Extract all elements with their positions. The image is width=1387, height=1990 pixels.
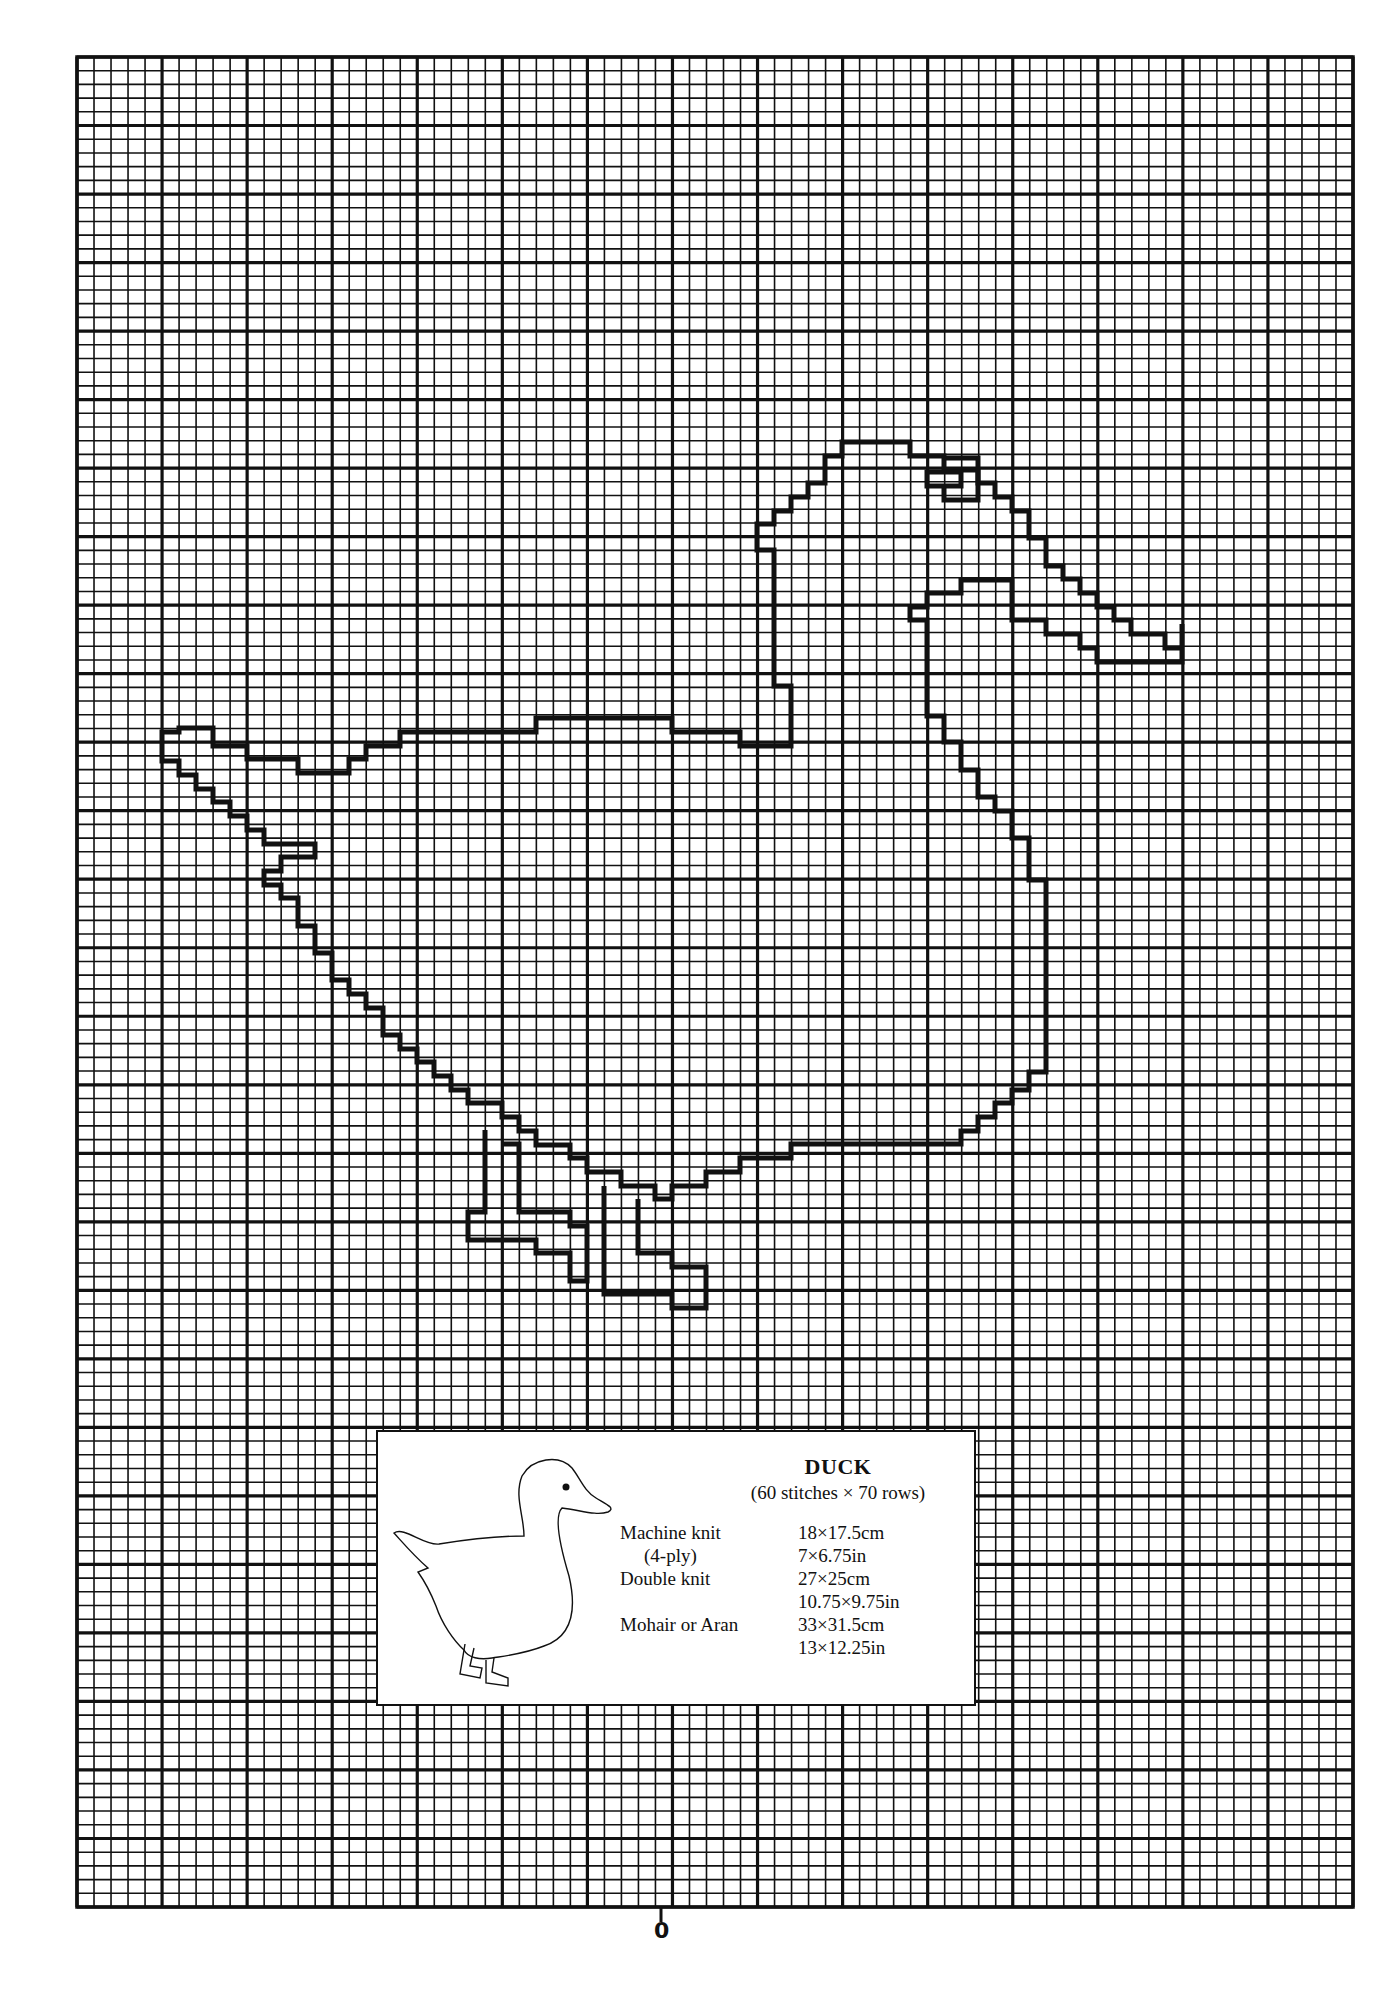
duck-illustration-icon [384,1436,634,1696]
spec-row: 10.75×9.75in [620,1591,900,1613]
spec-label: (4-ply) [620,1545,798,1567]
pattern-info-panel: DUCK (60 stitches × 70 rows) Machine kni… [376,1430,976,1706]
pattern-size: (60 stitches × 70 rows) [668,1482,1008,1504]
duck-eye [927,458,978,500]
spec-value: 13×12.25in [798,1637,885,1659]
spec-label: Mohair or Aran [620,1614,798,1636]
spec-row: Mohair or Aran33×31.5cm [620,1614,884,1636]
spec-row: Double knit27×25cm [620,1568,870,1590]
spec-value: 7×6.75in [798,1545,866,1567]
pattern-title: DUCK [698,1454,978,1480]
spec-value: 18×17.5cm [798,1522,884,1544]
spec-label: Double knit [620,1568,798,1590]
spec-row: (4-ply)7×6.75in [620,1545,866,1567]
spec-value: 10.75×9.75in [798,1591,900,1613]
spec-value: 27×25cm [798,1568,870,1590]
center-marker-label: 0 [654,1918,669,1943]
spec-value: 33×31.5cm [798,1614,884,1636]
spec-row: 13×12.25in [620,1637,885,1659]
spec-row: Machine knit18×17.5cm [620,1522,884,1544]
spec-label: Machine knit [620,1522,798,1544]
